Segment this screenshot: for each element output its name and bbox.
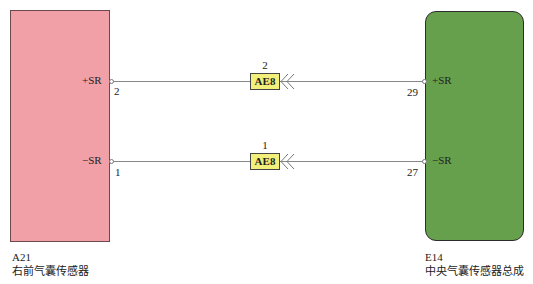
e14-id-label: E14 — [425, 250, 443, 264]
a21-pin-minus-sr-label: −SR — [82, 154, 102, 166]
connector-arrow-icon — [280, 153, 296, 170]
e14-pin-27-number: 27 — [407, 166, 418, 178]
e14-name-label: 中央气囊传感器总成 — [425, 264, 524, 278]
connector-ae8-pin-1-number: 1 — [250, 139, 280, 151]
connector-ae8-pin-2-number: 2 — [250, 59, 280, 71]
a21-name-label: 右前气囊传感器 — [12, 264, 89, 278]
e14-pin-29-number: 29 — [407, 86, 418, 98]
connector-arrow-icon — [280, 73, 296, 90]
a21-pin-2-number: 2 — [114, 85, 120, 97]
a21-pin-2-node — [109, 79, 114, 84]
a21-pin-1-node — [109, 159, 114, 164]
connector-ae8-top: AE8 — [250, 73, 280, 90]
e14-pin-29-node — [422, 79, 427, 84]
component-e14-body — [425, 11, 524, 241]
e14-pin-27-node — [422, 159, 427, 164]
a21-pin-plus-sr-label: +SR — [82, 74, 102, 86]
e14-pin-minus-sr-label: −SR — [432, 154, 452, 166]
e14-pin-plus-sr-label: +SR — [432, 74, 452, 86]
a21-id-label: A21 — [12, 250, 31, 264]
connector-ae8-bottom: AE8 — [250, 153, 280, 170]
a21-pin-1-number: 1 — [115, 166, 121, 178]
component-a21-body — [10, 10, 110, 242]
